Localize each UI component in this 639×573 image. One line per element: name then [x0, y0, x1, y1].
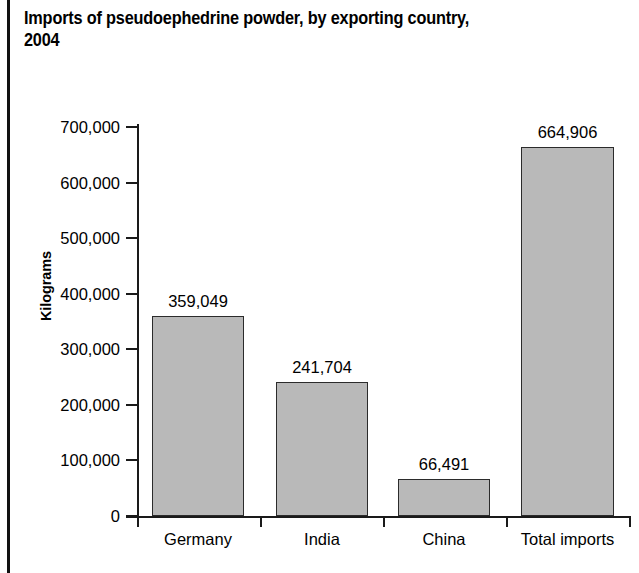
y-axis-tick-label: 500,000: [30, 229, 120, 248]
y-axis-tick-mark: [126, 126, 138, 128]
chart-title: Imports of pseudoephedrine powder, by ex…: [24, 7, 578, 52]
y-axis-tick-label: 600,000: [30, 173, 120, 192]
bar-value-label: 66,491: [378, 455, 510, 474]
y-axis-tick-mark: [126, 404, 138, 406]
x-axis-category-label: Total imports: [496, 530, 639, 549]
bar-value-label: 664,906: [501, 123, 634, 142]
y-axis-tick-mark: [126, 515, 138, 517]
x-axis-tick-mark: [260, 518, 262, 527]
y-axis-tick-label: 100,000: [30, 451, 120, 470]
x-axis-tick-mark: [629, 518, 631, 527]
x-axis-category-label: Germany: [127, 530, 269, 549]
bar: [521, 147, 614, 516]
x-axis-category-label: China: [373, 530, 515, 549]
bar: [276, 382, 368, 516]
y-axis-tick-label: 0: [30, 507, 120, 526]
y-axis-tick-label: 200,000: [30, 395, 120, 414]
x-axis-line: [126, 516, 631, 518]
bar: [152, 316, 244, 516]
y-axis-tick-mark: [126, 182, 138, 184]
y-axis-tick-mark: [126, 237, 138, 239]
y-axis-tick-label: 300,000: [30, 340, 120, 359]
x-axis-tick-mark: [137, 518, 139, 527]
bar-value-label: 359,049: [132, 292, 264, 311]
bar: [398, 479, 490, 516]
y-axis-tick-mark: [126, 459, 138, 461]
x-axis-category-label: India: [251, 530, 393, 549]
y-axis-tick-label: 700,000: [30, 118, 120, 137]
figure-left-rule: [7, 0, 10, 573]
bar-value-label: 241,704: [256, 358, 388, 377]
y-axis-tick-label: 400,000: [30, 284, 120, 303]
y-axis-tick-mark: [126, 348, 138, 350]
x-axis-tick-mark: [383, 518, 385, 527]
x-axis-tick-mark: [506, 518, 508, 527]
chart-figure: Imports of pseudoephedrine powder, by ex…: [0, 0, 639, 573]
